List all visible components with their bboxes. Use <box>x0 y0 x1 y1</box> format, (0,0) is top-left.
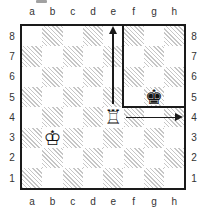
square-d2 <box>83 148 103 168</box>
square-a1 <box>22 168 42 188</box>
square-e3 <box>103 128 123 148</box>
arrow-up-e-file-line <box>112 33 114 104</box>
square-d8 <box>83 26 103 46</box>
square-h6 <box>164 67 184 87</box>
file-label-bottom-g: g <box>144 195 164 208</box>
rank-label-left-7: 7 <box>6 50 18 63</box>
rank-label-left-2: 2 <box>6 151 18 164</box>
square-a2 <box>22 148 42 168</box>
square-g2 <box>144 148 164 168</box>
square-b8 <box>42 26 62 46</box>
piece-white-rook-e4: ♖ <box>103 107 123 127</box>
scan-artifact <box>36 0 47 3</box>
file-label-bottom-e: e <box>103 195 123 208</box>
file-label-top-f: f <box>124 5 144 18</box>
rank-label-right-4: 4 <box>188 111 200 124</box>
file-label-bottom-h: h <box>164 195 184 208</box>
square-h3 <box>164 128 184 148</box>
rank-label-right-1: 1 <box>188 172 200 185</box>
rank-label-right-2: 2 <box>188 151 200 164</box>
file-label-top-a: a <box>22 5 42 18</box>
square-b2 <box>42 148 62 168</box>
file-label-top-d: d <box>83 5 103 18</box>
file-label-top-h: h <box>164 5 184 18</box>
rank-label-right-3: 3 <box>188 131 200 144</box>
square-d5 <box>83 87 103 107</box>
arrow-up-e-file-head <box>109 26 117 34</box>
square-a8 <box>22 26 42 46</box>
rank-label-left-5: 5 <box>6 91 18 104</box>
file-label-bottom-d: d <box>83 195 103 208</box>
square-c2 <box>63 148 83 168</box>
rank-label-right-8: 8 <box>188 30 200 43</box>
square-b7 <box>42 46 62 66</box>
square-c8 <box>63 26 83 46</box>
file-label-top-e: e <box>103 5 123 18</box>
rank-label-left-1: 1 <box>6 172 18 185</box>
square-c1 <box>63 168 83 188</box>
square-d4 <box>83 107 103 127</box>
square-f7 <box>124 46 144 66</box>
square-b4 <box>42 107 62 127</box>
square-b1 <box>42 168 62 188</box>
rank-label-left-8: 8 <box>6 30 18 43</box>
file-label-bottom-f: f <box>124 195 144 208</box>
square-b6 <box>42 67 62 87</box>
rank-label-left-4: 4 <box>6 111 18 124</box>
square-a4 <box>22 107 42 127</box>
square-c7 <box>63 46 83 66</box>
square-d7 <box>83 46 103 66</box>
square-f5 <box>124 87 144 107</box>
square-h8 <box>164 26 184 46</box>
square-c4 <box>63 107 83 127</box>
square-c3 <box>63 128 83 148</box>
rank-label-right-7: 7 <box>188 50 200 63</box>
square-e2 <box>103 148 123 168</box>
piece-black-king-g5: ♚ <box>144 87 164 107</box>
square-f3 <box>124 128 144 148</box>
square-c6 <box>63 67 83 87</box>
square-a7 <box>22 46 42 66</box>
file-label-top-g: g <box>144 5 164 18</box>
square-d3 <box>83 128 103 148</box>
piece-white-king-b3: ♔ <box>42 128 62 148</box>
square-h5 <box>164 87 184 107</box>
rank-label-left-6: 6 <box>6 70 18 83</box>
square-a6 <box>22 67 42 87</box>
file-label-bottom-c: c <box>63 195 83 208</box>
rank-label-right-6: 6 <box>188 70 200 83</box>
square-f6 <box>124 67 144 87</box>
square-a3 <box>22 128 42 148</box>
square-a5 <box>22 87 42 107</box>
square-f8 <box>124 26 144 46</box>
square-g8 <box>144 26 164 46</box>
square-h1 <box>164 168 184 188</box>
square-g7 <box>144 46 164 66</box>
square-b5 <box>42 87 62 107</box>
square-h2 <box>164 148 184 168</box>
square-c5 <box>63 87 83 107</box>
square-g3 <box>144 128 164 148</box>
confinement-box-vertical-line <box>122 26 124 108</box>
square-f1 <box>124 168 144 188</box>
square-f2 <box>124 148 144 168</box>
file-label-top-c: c <box>63 5 83 18</box>
file-label-bottom-a: a <box>22 195 42 208</box>
square-d1 <box>83 168 103 188</box>
rank-label-left-3: 3 <box>6 131 18 144</box>
square-g6 <box>144 67 164 87</box>
arrow-right-rank4-line <box>126 117 175 119</box>
chess-diagram: aabbccddeeffgghh8877665544332211 ♔♖♚ <box>0 0 204 217</box>
file-label-bottom-b: b <box>42 195 62 208</box>
square-d6 <box>83 67 103 87</box>
square-e1 <box>103 168 123 188</box>
square-g1 <box>144 168 164 188</box>
file-label-top-b: b <box>42 5 62 18</box>
rank-label-right-5: 5 <box>188 91 200 104</box>
square-h7 <box>164 46 184 66</box>
arrow-right-rank4-head <box>175 113 183 121</box>
